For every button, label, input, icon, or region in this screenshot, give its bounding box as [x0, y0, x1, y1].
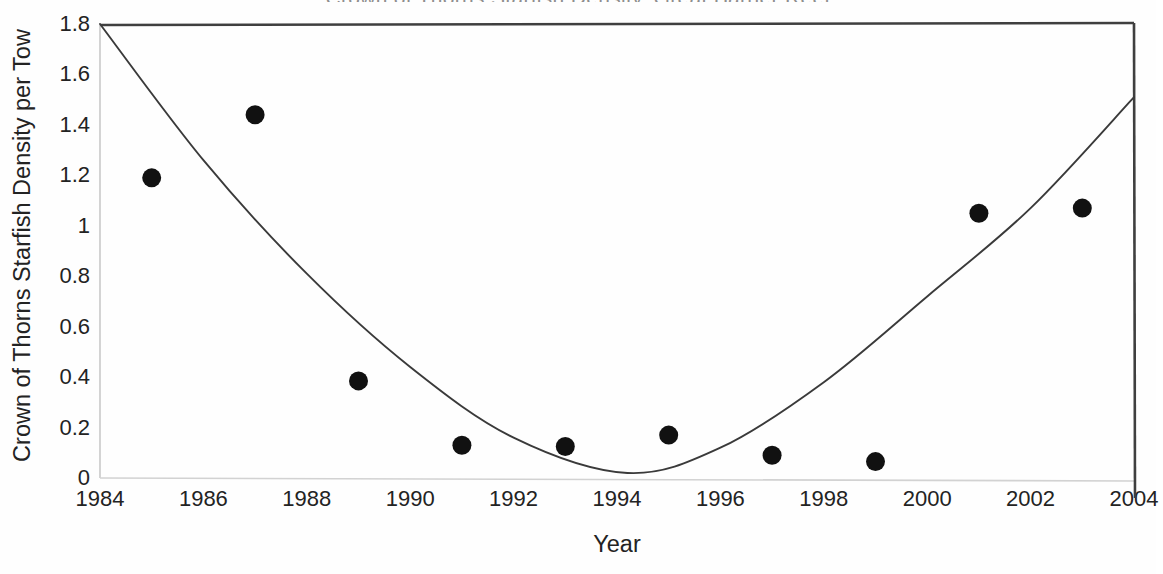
- data-point: [246, 105, 265, 124]
- data-point: [659, 426, 678, 445]
- trend-line: [100, 24, 1134, 473]
- plot-top-border: [100, 23, 1134, 25]
- plot-right-border: [1134, 23, 1135, 498]
- data-point: [969, 204, 988, 223]
- data-point: [142, 168, 161, 187]
- data-point: [556, 437, 575, 456]
- data-point: [763, 446, 782, 465]
- data-point: [866, 452, 885, 471]
- data-point: [1073, 199, 1092, 218]
- x-axis-line: [100, 478, 1134, 481]
- data-point: [349, 371, 368, 390]
- data-point: [452, 436, 471, 455]
